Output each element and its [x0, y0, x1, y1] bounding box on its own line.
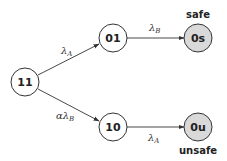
- edge-10-to-0u: λA: [127, 127, 184, 145]
- edge-label: λB: [148, 22, 161, 35]
- state-diagram: λA αλB λB λA 11 01 10 0s safe: [0, 0, 227, 161]
- unsafe-tag: unsafe: [179, 145, 217, 156]
- node-10: 10: [99, 113, 127, 141]
- edge-label: λA: [60, 45, 72, 58]
- node-0s: 0s safe: [184, 9, 212, 52]
- node-0u: 0u unsafe: [179, 113, 217, 156]
- node-01: 01: [99, 24, 127, 52]
- node-label: 0s: [191, 32, 206, 45]
- edge-11-to-10: αλB: [38, 89, 99, 123]
- edge-11-to-01: λA: [38, 44, 99, 75]
- edge-label: αλB: [56, 110, 74, 123]
- edge-01-to-0s: λB: [127, 22, 184, 38]
- safe-tag: safe: [186, 9, 210, 20]
- node-11: 11: [11, 68, 39, 96]
- node-label: 11: [17, 76, 32, 89]
- node-label: 10: [105, 121, 121, 134]
- edge-label: λA: [147, 132, 159, 145]
- node-label: 01: [105, 32, 120, 45]
- node-label: 0u: [190, 121, 206, 134]
- edge-line: [38, 44, 99, 75]
